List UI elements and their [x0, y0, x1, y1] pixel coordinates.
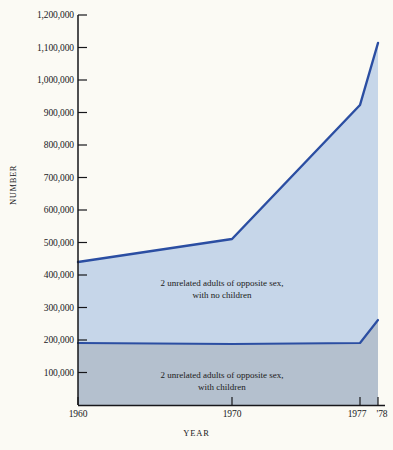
- y-tick-label: 700,000: [10, 173, 74, 183]
- x-tick-label: 1960: [69, 409, 88, 419]
- upper-band-annotation-line1: 2 unrelated adults of opposite sex,: [161, 277, 284, 289]
- y-axis-tick-labels: 1,200,000 1,100,000 1,000,000 900,000 80…: [4, 0, 74, 450]
- upper-band-annotation: 2 unrelated adults of opposite sex, with…: [161, 277, 284, 301]
- y-tick-label: 100,000: [10, 368, 74, 378]
- y-tick-label: 900,000: [10, 108, 74, 118]
- y-axis-title: NUMBER: [8, 155, 18, 215]
- y-tick-label: 300,000: [10, 303, 74, 313]
- lower-band-annotation: 2 unrelated adults of opposite sex, with…: [161, 369, 284, 393]
- x-tick-label: '78: [377, 409, 388, 419]
- lower-band-annotation-line1: 2 unrelated adults of opposite sex,: [161, 369, 284, 381]
- upper-band-annotation-line2: with no children: [161, 289, 284, 301]
- x-tick-label: 1977: [348, 409, 367, 419]
- y-tick-label: 600,000: [10, 205, 74, 215]
- y-tick-label: 400,000: [10, 270, 74, 280]
- chart-container: 1,200,000 1,100,000 1,000,000 900,000 80…: [0, 0, 393, 450]
- y-tick-label: 800,000: [10, 140, 74, 150]
- x-axis-tick-labels: 1960 1970 1977 '78: [0, 409, 393, 427]
- x-axis-title: YEAR: [0, 428, 393, 438]
- y-tick-label: 1,100,000: [10, 43, 74, 53]
- x-tick-label: 1970: [223, 409, 242, 419]
- y-tick-label: 200,000: [10, 335, 74, 345]
- y-tick-label: 1,000,000: [10, 75, 74, 85]
- y-tick-label: 500,000: [10, 238, 74, 248]
- lower-band-annotation-line2: with children: [161, 381, 284, 393]
- y-tick-label: 1,200,000: [10, 10, 74, 20]
